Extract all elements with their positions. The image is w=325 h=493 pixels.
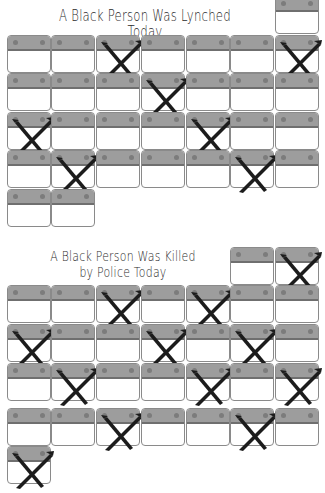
ring-hole-icon xyxy=(129,78,134,83)
ring-hole-icon xyxy=(13,194,18,199)
ring-hole-icon xyxy=(84,155,89,160)
calendar-day-header xyxy=(97,409,139,424)
ring-hole-icon xyxy=(281,78,286,83)
calendar-day-cell xyxy=(275,150,319,188)
calendar-day-cell xyxy=(275,0,319,34)
ring-hole-icon xyxy=(308,290,313,295)
ring-hole-icon xyxy=(40,117,45,122)
ring-hole-icon xyxy=(57,194,62,199)
ring-hole-icon xyxy=(102,117,107,122)
calendar-day-cell xyxy=(186,73,230,111)
calendar-day-cell xyxy=(51,150,95,188)
ring-hole-icon xyxy=(281,252,286,257)
ring-hole-icon xyxy=(84,329,89,334)
calendar-day-cell xyxy=(96,35,140,73)
calendar-day-cell xyxy=(230,112,274,150)
ring-hole-icon xyxy=(308,413,313,418)
calendar-day-cell xyxy=(51,363,95,401)
calendar-day-cell xyxy=(51,324,95,362)
ring-hole-icon xyxy=(40,78,45,83)
ring-hole-icon xyxy=(102,413,107,418)
calendar-day-header xyxy=(97,286,139,301)
calendar-day-header xyxy=(231,286,273,301)
ring-hole-icon xyxy=(13,40,18,45)
calendar-day-cell xyxy=(51,112,95,150)
ring-hole-icon xyxy=(192,78,197,83)
ring-hole-icon xyxy=(263,117,268,122)
ring-hole-icon xyxy=(84,194,89,199)
calendar-day-header xyxy=(231,364,273,379)
ring-hole-icon xyxy=(84,368,89,373)
calendar-day-header xyxy=(97,364,139,379)
ring-hole-icon xyxy=(129,40,134,45)
ring-hole-icon xyxy=(13,451,18,456)
calendar-day-cell xyxy=(230,73,274,111)
calendar-day-header xyxy=(276,113,318,128)
calendar-day-cell xyxy=(230,408,274,446)
ring-hole-icon xyxy=(308,78,313,83)
ring-hole-icon xyxy=(236,40,241,45)
ring-hole-icon xyxy=(129,117,134,122)
ring-hole-icon xyxy=(57,368,62,373)
calendar-day-header xyxy=(97,36,139,51)
ring-hole-icon xyxy=(219,329,224,334)
ring-hole-icon xyxy=(308,117,313,122)
calendar-day-cell xyxy=(186,408,230,446)
calendar-day-cell xyxy=(141,150,185,188)
ring-hole-icon xyxy=(219,78,224,83)
calendar-day-cell xyxy=(7,285,51,323)
calendar-day-header xyxy=(52,113,94,128)
ring-hole-icon xyxy=(129,290,134,295)
ring-hole-icon xyxy=(147,329,152,334)
ring-hole-icon xyxy=(57,78,62,83)
ring-hole-icon xyxy=(281,329,286,334)
ring-hole-icon xyxy=(40,155,45,160)
calendar-day-header xyxy=(52,325,94,340)
calendar-day-header xyxy=(187,286,229,301)
ring-hole-icon xyxy=(236,117,241,122)
ring-hole-icon xyxy=(40,40,45,45)
ring-hole-icon xyxy=(236,78,241,83)
ring-hole-icon xyxy=(147,78,152,83)
calendar-day-cell xyxy=(7,35,51,73)
calendar-day-header xyxy=(276,364,318,379)
ring-hole-icon xyxy=(102,40,107,45)
ring-hole-icon xyxy=(40,451,45,456)
ring-hole-icon xyxy=(263,413,268,418)
ring-hole-icon xyxy=(57,290,62,295)
ring-hole-icon xyxy=(219,40,224,45)
calendar-day-header xyxy=(231,74,273,89)
calendar-day-header xyxy=(276,36,318,51)
ring-hole-icon xyxy=(57,329,62,334)
calendar-day-header xyxy=(97,151,139,166)
ring-hole-icon xyxy=(13,368,18,373)
ring-hole-icon xyxy=(308,368,313,373)
calendar-day-cell xyxy=(230,285,274,323)
calendar-day-cell xyxy=(7,324,51,362)
ring-hole-icon xyxy=(40,368,45,373)
calendar-day-header xyxy=(276,248,318,263)
ring-hole-icon xyxy=(129,329,134,334)
ring-hole-icon xyxy=(147,40,152,45)
ring-hole-icon xyxy=(308,329,313,334)
calendar-day-cell xyxy=(51,35,95,73)
calendar-day-cell xyxy=(141,363,185,401)
calendar-day-header xyxy=(187,151,229,166)
calendar-day-cell xyxy=(141,285,185,323)
calendar-day-header xyxy=(187,36,229,51)
ring-hole-icon xyxy=(40,329,45,334)
calendar-day-header xyxy=(8,74,50,89)
calendar-day-cell xyxy=(275,73,319,111)
ring-hole-icon xyxy=(192,290,197,295)
ring-hole-icon xyxy=(263,155,268,160)
ring-hole-icon xyxy=(192,40,197,45)
ring-hole-icon xyxy=(308,155,313,160)
calendar-day-cell xyxy=(230,247,274,285)
calendar-day-header xyxy=(276,286,318,301)
ring-hole-icon xyxy=(57,40,62,45)
calendar-day-header xyxy=(231,325,273,340)
ring-hole-icon xyxy=(57,413,62,418)
ring-hole-icon xyxy=(174,329,179,334)
ring-hole-icon xyxy=(263,40,268,45)
calendar-day-cell xyxy=(51,189,95,227)
